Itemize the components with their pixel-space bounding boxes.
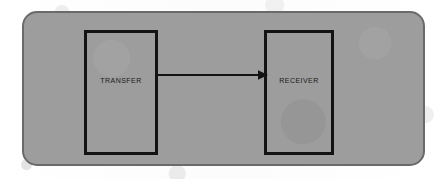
diagram-panel: TRANSFER RECEIVER — [22, 11, 425, 166]
node-receiver[interactable]: RECEIVER — [264, 30, 334, 155]
node-transfer-label: TRANSFER — [100, 77, 141, 84]
node-receiver-label: RECEIVER — [279, 77, 318, 84]
node-transfer[interactable]: TRANSFER — [84, 30, 158, 155]
diagram-canvas: TRANSFER RECEIVER — [0, 0, 443, 179]
connector-transfer-to-receiver — [155, 68, 269, 82]
